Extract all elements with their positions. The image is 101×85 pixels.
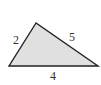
side-label-bottom: 4 <box>50 69 56 83</box>
triangle-shape <box>9 23 98 66</box>
triangle-diagram: 2 5 4 <box>0 0 101 85</box>
side-label-right: 5 <box>69 30 75 44</box>
side-label-left: 2 <box>13 33 19 47</box>
